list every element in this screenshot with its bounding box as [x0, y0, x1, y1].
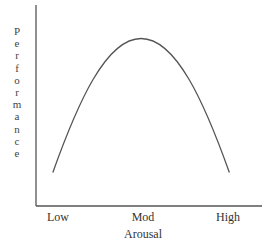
y-axis-label-letter: o [14, 74, 20, 86]
y-axis-label-letter: r [15, 49, 19, 61]
y-axis-label-letter: a [15, 110, 20, 122]
x-axis-label: Arousal [124, 227, 163, 241]
y-axis-label-letter: P [14, 25, 20, 37]
y-axis-label-letter: e [15, 37, 20, 49]
y-axis-label-letter: f [15, 62, 19, 74]
y-axis-label-letter: c [15, 135, 20, 147]
y-axis-label-letter: m [13, 98, 22, 110]
y-axis-label-letter: n [14, 123, 20, 135]
y-axis-label: Performance [13, 25, 22, 159]
performance-curve [53, 39, 230, 173]
x-tick-high: High [216, 210, 240, 224]
x-tick-mod: Mod [132, 210, 155, 224]
x-tick-low: Low [47, 210, 69, 224]
y-axis-label-letter: e [15, 147, 20, 159]
y-axis-label-letter: r [15, 86, 19, 98]
chart: Performance Low Mod High Arousal [0, 0, 269, 249]
